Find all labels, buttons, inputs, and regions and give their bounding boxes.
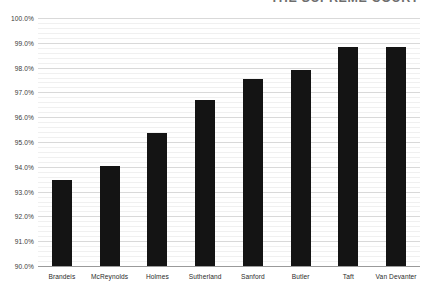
x-axis-tick-label: Sutherland: [189, 273, 222, 280]
gridline-minor: [38, 102, 420, 103]
bar: [386, 47, 406, 266]
gridline-minor: [38, 122, 420, 123]
x-axis-tick-label: Holmes: [146, 273, 169, 280]
gridline-minor: [38, 53, 420, 54]
bar: [52, 180, 72, 266]
x-axis-tick-label: Taft: [343, 273, 354, 280]
gridline-minor: [38, 48, 420, 49]
gridline-minor: [38, 38, 420, 39]
gridline-major: [38, 241, 420, 242]
gridline-minor: [38, 177, 420, 178]
gridline-minor: [38, 132, 420, 133]
y-axis-tick-label: 97.0%: [15, 89, 34, 96]
gridline-minor: [38, 152, 420, 153]
gridline-minor: [38, 33, 420, 34]
gridline-major: [38, 43, 420, 44]
gridline-major: [38, 142, 420, 143]
gridline-minor: [38, 127, 420, 128]
gridline-minor: [38, 137, 420, 138]
y-axis-tick-label: 93.0%: [15, 188, 34, 195]
gridline-minor: [38, 226, 420, 227]
gridline-minor: [38, 197, 420, 198]
y-axis-tick-label: 100.0%: [11, 15, 34, 22]
y-axis-tick-label: 99.0%: [15, 39, 34, 46]
gridline-minor: [38, 112, 420, 113]
x-axis-tick-label: Butler: [292, 273, 310, 280]
gridline-major: [38, 117, 420, 118]
x-axis-tick-label: Sanford: [241, 273, 265, 280]
x-axis-tick-label: McReynolds: [91, 273, 128, 280]
gridline-minor: [38, 256, 420, 257]
bar: [291, 70, 311, 266]
plot-area: 90.0%91.0%92.0%93.0%94.0%95.0%96.0%97.0%…: [38, 18, 420, 266]
x-axis-tick-label: Van Devanter: [376, 273, 417, 280]
y-axis-tick-label: 95.0%: [15, 139, 34, 146]
gridline-minor: [38, 87, 420, 88]
gridline-minor: [38, 78, 420, 79]
gridline-minor: [38, 202, 420, 203]
gridline-major: [38, 216, 420, 217]
gridline-minor: [38, 82, 420, 83]
gridline-minor: [38, 147, 420, 148]
gridline-minor: [38, 97, 420, 98]
gridline-minor: [38, 187, 420, 188]
chart-title-clip: THE SUPREME COURT: [0, 0, 431, 7]
bar: [100, 166, 120, 266]
y-axis-tick-label: 94.0%: [15, 163, 34, 170]
gridline-minor: [38, 73, 420, 74]
bar: [338, 47, 358, 266]
gridline-minor: [38, 221, 420, 222]
gridline-minor: [38, 231, 420, 232]
gridline-minor: [38, 246, 420, 247]
x-axis-line: [38, 266, 420, 267]
gridline-minor: [38, 261, 420, 262]
gridline-major: [38, 192, 420, 193]
y-axis-tick-label: 98.0%: [15, 64, 34, 71]
gridline-minor: [38, 172, 420, 173]
gridline-minor: [38, 211, 420, 212]
gridline-minor: [38, 58, 420, 59]
gridline-major: [38, 92, 420, 93]
bar: [147, 133, 167, 266]
gridline-minor: [38, 162, 420, 163]
gridline-minor: [38, 251, 420, 252]
y-axis-tick-label: 92.0%: [15, 213, 34, 220]
y-axis-tick-label: 91.0%: [15, 238, 34, 245]
gridline-minor: [38, 157, 420, 158]
x-axis-tick-label: Brandeis: [48, 273, 75, 280]
gridline-major: [38, 18, 420, 19]
bar: [243, 79, 263, 266]
chart-page: THE SUPREME COURT 90.0%91.0%92.0%93.0%94…: [0, 0, 431, 297]
y-axis-tick-label: 96.0%: [15, 114, 34, 121]
chart-title: THE SUPREME COURT: [271, 0, 419, 5]
gridline-minor: [38, 182, 420, 183]
y-axis-tick-label: 90.0%: [15, 263, 34, 270]
gridline-minor: [38, 236, 420, 237]
gridline-minor: [38, 63, 420, 64]
bar: [195, 100, 215, 266]
gridline-major: [38, 68, 420, 69]
gridline-minor: [38, 28, 420, 29]
gridline-major: [38, 167, 420, 168]
gridline-minor: [38, 206, 420, 207]
gridline-minor: [38, 107, 420, 108]
gridline-minor: [38, 23, 420, 24]
